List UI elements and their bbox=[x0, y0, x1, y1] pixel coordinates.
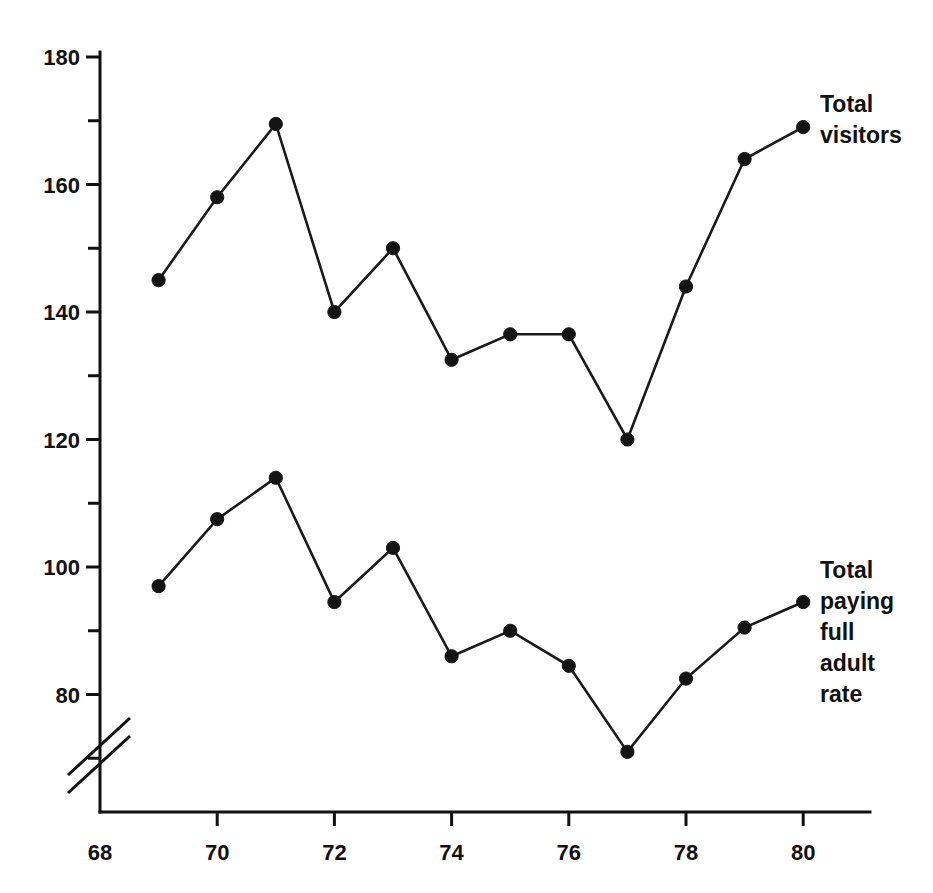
data-point bbox=[679, 280, 692, 293]
series-label-1: Totalpayingfulladultrate bbox=[820, 557, 894, 707]
data-point bbox=[562, 659, 575, 672]
data-point bbox=[738, 621, 751, 634]
y-axis-tick-labels: 18016014012010080 bbox=[43, 45, 80, 708]
data-point bbox=[504, 624, 517, 637]
x-tick-label: 76 bbox=[557, 840, 581, 865]
data-point bbox=[328, 305, 341, 318]
axes-group bbox=[100, 52, 870, 812]
data-point bbox=[269, 117, 282, 130]
data-point bbox=[621, 745, 634, 758]
data-point bbox=[504, 328, 517, 341]
data-point bbox=[445, 353, 458, 366]
series-line-1 bbox=[159, 478, 804, 752]
series-label-line: rate bbox=[820, 681, 862, 707]
x-axis-ticks bbox=[217, 812, 803, 826]
y-tick-label: 180 bbox=[43, 45, 80, 70]
data-point bbox=[621, 433, 634, 446]
series-label-line: adult bbox=[820, 650, 875, 676]
x-axis-tick-labels: 68707274767880 bbox=[88, 840, 816, 865]
series-1 bbox=[152, 471, 810, 758]
line-chart: 18016014012010080 68707274767880 Totalvi… bbox=[0, 0, 933, 893]
data-point bbox=[562, 328, 575, 341]
y-axis-ticks bbox=[86, 57, 100, 758]
y-tick-label: 80 bbox=[56, 683, 80, 708]
y-tick-label: 160 bbox=[43, 173, 80, 198]
data-point bbox=[269, 471, 282, 484]
series-label-line: Total bbox=[820, 557, 873, 583]
series-0 bbox=[152, 117, 810, 446]
series-labels: TotalvisitorsTotalpayingfulladultrate bbox=[820, 91, 902, 707]
data-point bbox=[152, 274, 165, 287]
data-point bbox=[738, 152, 751, 165]
y-tick-label: 100 bbox=[43, 555, 80, 580]
series-label-line: paying bbox=[820, 588, 894, 614]
series-label-line: Total bbox=[820, 91, 873, 117]
chart-page: 18016014012010080 68707274767880 Totalvi… bbox=[0, 0, 933, 893]
data-point bbox=[386, 242, 399, 255]
series-label-line: full bbox=[820, 619, 855, 645]
x-tick-label: 70 bbox=[205, 840, 229, 865]
series-line-0 bbox=[159, 124, 804, 440]
data-point bbox=[445, 650, 458, 663]
data-point bbox=[328, 595, 341, 608]
x-tick-label: 74 bbox=[439, 840, 464, 865]
data-point bbox=[797, 121, 810, 134]
data-point bbox=[679, 672, 692, 685]
data-point bbox=[211, 191, 224, 204]
y-tick-label: 120 bbox=[43, 428, 80, 453]
x-tick-label: 80 bbox=[791, 840, 815, 865]
x-tick-label: 68 bbox=[88, 840, 112, 865]
data-point bbox=[386, 541, 399, 554]
data-point bbox=[152, 580, 165, 593]
series-label-line: visitors bbox=[820, 122, 902, 148]
x-tick-label: 72 bbox=[322, 840, 346, 865]
y-tick-label: 140 bbox=[43, 300, 80, 325]
series-label-0: Totalvisitors bbox=[820, 91, 902, 148]
data-point bbox=[211, 513, 224, 526]
series-group bbox=[152, 117, 810, 758]
data-point bbox=[797, 595, 810, 608]
x-tick-label: 78 bbox=[674, 840, 698, 865]
